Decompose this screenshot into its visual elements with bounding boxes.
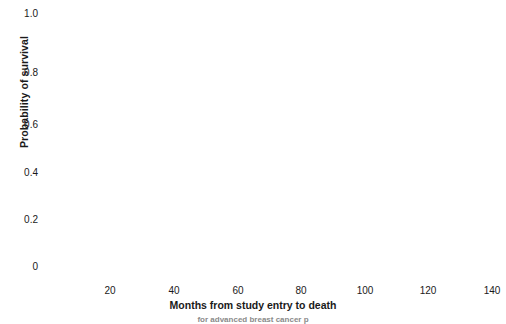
plot-area (0, 0, 506, 324)
survival-chart-figure: Probability of survival 1.0 0.8 0.6 0.4 … (0, 0, 506, 324)
